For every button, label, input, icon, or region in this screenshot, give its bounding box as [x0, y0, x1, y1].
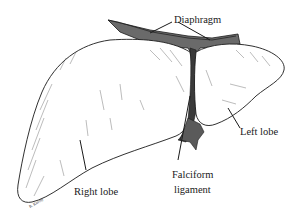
- label-falciform-line1: Falciform: [172, 169, 213, 180]
- label-diaphragm: Diaphragm: [174, 14, 221, 25]
- label-falciform-line2: ligament: [174, 184, 211, 195]
- label-left-lobe: Left lobe: [240, 126, 278, 137]
- right-lobe-shape: [18, 39, 193, 202]
- label-right-lobe: Right lobe: [74, 186, 118, 197]
- liver-illustration: R. Kuroly: [0, 0, 302, 223]
- left-lobe-shape: [195, 44, 285, 126]
- liver-diagram: R. Kuroly Diaphragm Left lobe Falciform …: [0, 0, 302, 223]
